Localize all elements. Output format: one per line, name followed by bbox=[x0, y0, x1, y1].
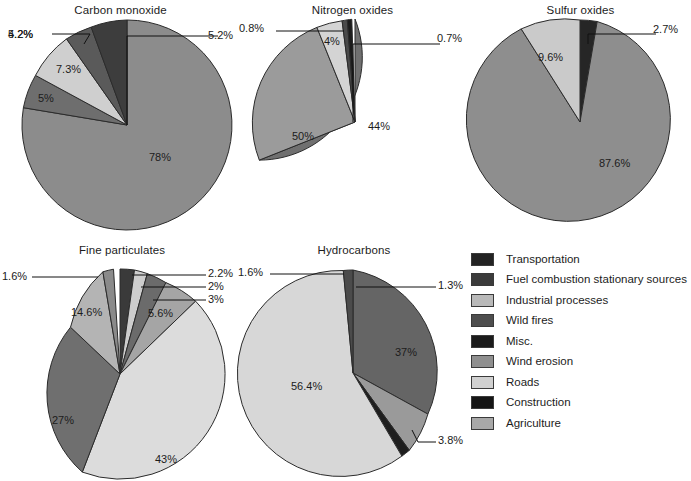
legend-swatch-industrial-processes bbox=[471, 294, 494, 307]
chart-panel-carbon-monoxide: Carbon monoxide 78% 5.2% 7.3% bbox=[8, 4, 233, 236]
value-label-wind-erosion: 5.6% bbox=[148, 307, 173, 319]
legend-swatch-transportation bbox=[471, 253, 494, 266]
value-label-misc: 56.4% bbox=[291, 380, 322, 392]
pie-nitrogen-oxides: 44% 50% 4% bbox=[240, 4, 465, 236]
value-label-transportation: 78% bbox=[149, 151, 171, 163]
value-label-wild-fires: 7.3% bbox=[56, 63, 81, 75]
pie-slices bbox=[237, 270, 437, 476]
legend-item-construction[interactable]: Construction bbox=[471, 393, 686, 414]
pie-hydrocarbons: 37% 56.4% bbox=[240, 244, 468, 481]
callout-wild-fires: 1.6% bbox=[238, 266, 263, 278]
legend-label-construction: Construction bbox=[506, 396, 571, 409]
callout-transportation: 2.7% bbox=[653, 23, 678, 35]
legend-label-transportation: Transportation bbox=[506, 253, 580, 266]
pie-sulfur-oxides: 87.6% 9.6% bbox=[470, 4, 691, 236]
value-label-transportation: 44% bbox=[368, 120, 390, 132]
legend-swatch-wild-fires bbox=[471, 314, 494, 327]
legend-label-roads: Roads bbox=[506, 376, 539, 389]
legend-label-misc: Misc. bbox=[506, 335, 533, 348]
legend-item-roads[interactable]: Roads bbox=[471, 372, 686, 393]
legend-swatch-misc bbox=[471, 335, 494, 348]
pie-fine-particulates: 43% 27% 14.6% 5.6% bbox=[8, 244, 236, 481]
legend-swatch-agriculture bbox=[471, 417, 494, 430]
legend-swatch-roads bbox=[471, 376, 494, 389]
callout-industrial-processes: 4.2% bbox=[8, 28, 33, 40]
pie-slices bbox=[47, 269, 225, 479]
callout-construction: 3% bbox=[208, 293, 224, 305]
chart-panel-nitrogen-oxides: Nitrogen oxides 44% 50% 4% 0.8% bbox=[240, 4, 465, 236]
legend-item-wind-erosion[interactable]: Wind erosion bbox=[471, 352, 686, 373]
value-label-fuel-combustion: 87.6% bbox=[599, 157, 630, 169]
legend-label-agriculture: Agriculture bbox=[506, 417, 561, 430]
legend-item-transportation[interactable]: Transportation bbox=[471, 249, 686, 270]
chart-panel-fine-particulates: Fine particulates bbox=[8, 244, 236, 481]
value-label-industrial-processes: 14.6% bbox=[71, 306, 102, 318]
callout-wild-fires: 0.8% bbox=[239, 22, 264, 34]
callout-fuel-combustion: 1.6% bbox=[2, 270, 27, 282]
value-label-transportation: 37% bbox=[395, 346, 417, 358]
legend-swatch-construction bbox=[471, 396, 494, 409]
legend-swatch-wind-erosion bbox=[471, 355, 494, 368]
chart-panel-hydrocarbons: Hydrocarbons 37% 56.4% 1.6% bbox=[240, 244, 468, 481]
value-label-fuel-combustion: 50% bbox=[292, 130, 314, 142]
legend-item-misc[interactable]: Misc. bbox=[471, 331, 686, 352]
pie-carbon-monoxide: 78% 5.2% 7.3% 5% bbox=[8, 4, 233, 236]
value-label-industrial-processes: 4% bbox=[324, 35, 340, 47]
callout-industrial-processes: 3.8% bbox=[438, 434, 463, 446]
callout-misc: 2% bbox=[208, 280, 224, 292]
value-label-agriculture: 27% bbox=[52, 414, 74, 426]
value-label-industrial-processes: 9.6% bbox=[538, 51, 563, 63]
legend-item-wild-fires[interactable]: Wild fires bbox=[471, 311, 686, 332]
pie-chart-figure: Carbon monoxide 78% 5.2% 7.3% bbox=[0, 0, 691, 481]
callout-fuel-combustion: 5.2% bbox=[208, 29, 233, 41]
legend-item-agriculture[interactable]: Agriculture bbox=[471, 413, 686, 434]
legend-item-fuel-combustion-stationary-sources[interactable]: Fuel combustion stationary sources bbox=[471, 270, 686, 291]
legend-swatch-fuel-combustion-stationary-sources bbox=[471, 273, 494, 286]
legend-label-industrial-processes: Industrial processes bbox=[506, 294, 608, 307]
legend-label-wild-fires: Wild fires bbox=[506, 314, 553, 327]
chart-panel-sulfur-oxides: Sulfur oxides 87.6% 9.6% 2.7% bbox=[470, 4, 691, 236]
callout-fuel-combustion: 1.3% bbox=[438, 279, 463, 291]
value-label-roads: 43% bbox=[155, 453, 177, 465]
legend-label-fuel-combustion-stationary-sources: Fuel combustion stationary sources bbox=[506, 273, 687, 286]
value-label-misc: 5% bbox=[38, 92, 54, 104]
callout-misc: 0.7% bbox=[437, 32, 462, 44]
pie-slices bbox=[466, 19, 670, 221]
legend-label-wind-erosion: Wind erosion bbox=[506, 355, 573, 368]
chart-legend: Transportation Fuel combustion stationar… bbox=[471, 249, 686, 434]
callout-transportation: 2.2% bbox=[208, 267, 233, 279]
legend-item-industrial-processes[interactable]: Industrial processes bbox=[471, 290, 686, 311]
